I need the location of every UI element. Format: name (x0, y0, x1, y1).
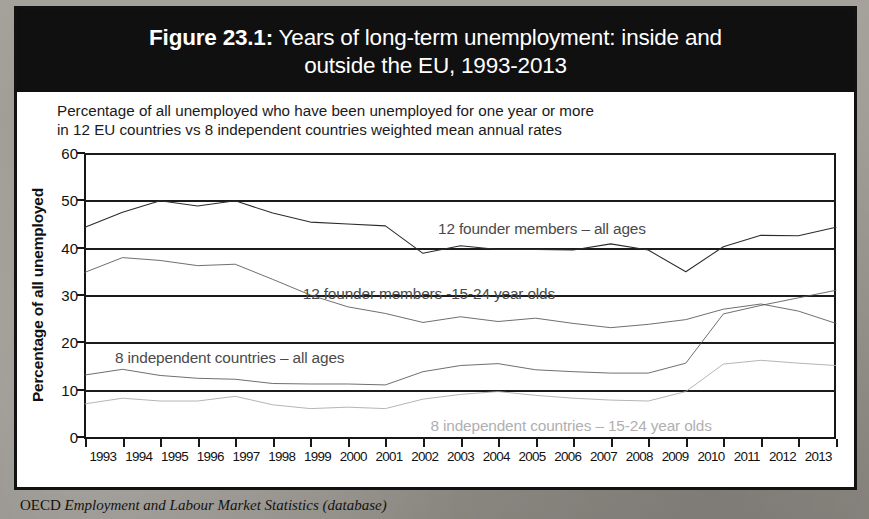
x-axis-tick-label: 2001 (371, 449, 407, 464)
x-axis-tick-label: 1993 (85, 449, 121, 464)
x-axis-tick-label: 2012 (765, 449, 801, 464)
series-annotation-label: 8 independent countries – all ages (115, 349, 344, 367)
y-axis-tick-label: 30 (61, 287, 78, 304)
x-axis-tick (385, 439, 387, 447)
x-axis-tick-label: 2000 (335, 449, 371, 464)
series-annotation-label: 12 founder members -15-24 year olds (303, 285, 555, 303)
y-axis-title: Percentage of all unemployed (25, 149, 51, 441)
x-axis-tick-label: 1994 (121, 449, 157, 464)
chart-subtitle-line-1: Percentage of all unemployed who have be… (57, 101, 836, 120)
x-axis-tick-label: 2009 (657, 449, 693, 464)
x-axis-tick (723, 439, 725, 447)
x-axis-tick-label: 2010 (693, 449, 729, 464)
x-axis-tick (798, 439, 800, 447)
y-axis-tick (77, 152, 85, 154)
series-annotation-label: 8 independent countries – 15-24 year old… (430, 417, 711, 435)
y-axis-tick-label: 60 (61, 145, 78, 162)
y-axis-tick-label: 40 (61, 239, 78, 256)
y-axis-tick-label: 20 (61, 334, 78, 351)
x-axis-tick-label: 2008 (621, 449, 657, 464)
x-axis-tick (686, 439, 688, 447)
x-axis-tick (123, 439, 125, 447)
series-line (85, 290, 836, 385)
x-axis-tick-label: 2011 (729, 449, 765, 464)
x-axis-tick (235, 439, 237, 447)
y-axis-tick (77, 436, 85, 438)
chart-subtitle-line-2: in 12 EU countries vs 8 independent coun… (57, 120, 836, 139)
x-axis-tick (198, 439, 200, 447)
y-axis-tick (77, 247, 85, 249)
x-axis-tick-label: 2005 (514, 449, 550, 464)
y-axis-tick (77, 294, 85, 296)
x-axis-tick-label: 2007 (586, 449, 622, 464)
x-axis-tick (423, 439, 425, 447)
figure-title-band: Figure 23.1: Years of long-term unemploy… (17, 9, 854, 92)
y-axis-tick (77, 199, 85, 201)
x-axis-tick-label: 1997 (228, 449, 264, 464)
x-axis-tick-label: 2002 (407, 449, 443, 464)
x-axis-tick (648, 439, 650, 447)
figure-title-line-1: Figure 23.1: Years of long-term unemploy… (149, 24, 722, 52)
source-caption: OECD Employment and Labour Market Statis… (20, 497, 850, 517)
x-axis-tick (536, 439, 538, 447)
x-axis-tick-label: 1999 (300, 449, 336, 464)
x-axis-tick (498, 439, 500, 447)
y-axis-tick-label: 50 (61, 192, 78, 209)
y-axis-tick-label: 0 (70, 429, 78, 446)
x-axis-tick (573, 439, 575, 447)
x-axis-tick (273, 439, 275, 447)
x-axis-tick-label: 2004 (478, 449, 514, 464)
y-axis-tick (77, 341, 85, 343)
source-rest: Employment and Labour Market Statistics … (61, 497, 387, 513)
x-axis-tick-label: 2003 (443, 449, 479, 464)
x-axis-tick (160, 439, 162, 447)
x-axis-tick (461, 439, 463, 447)
x-axis-tick (836, 439, 838, 447)
figure-container: Figure 23.1: Years of long-term unemploy… (14, 6, 857, 490)
y-axis-tick-label: 10 (61, 381, 78, 398)
source-lead: OECD (20, 497, 61, 513)
plot-region: 0102030405060 12 founder members – all a… (85, 153, 836, 437)
y-axis-title-text: Percentage of all unemployed (29, 188, 47, 402)
x-axis-tick (348, 439, 350, 447)
x-axis-tick-label: 1998 (264, 449, 300, 464)
figure-number: Figure 23.1: (149, 25, 273, 50)
figure-title-text: Years of long-term unemployment: inside … (273, 25, 722, 50)
x-axis-tick (611, 439, 613, 447)
x-axis: 1993199419951996199719981999200020012002… (85, 439, 836, 473)
x-axis-tick (310, 439, 312, 447)
y-axis-tick (77, 389, 85, 391)
x-axis-tick-label: 1995 (157, 449, 193, 464)
chart-subtitle: Percentage of all unemployed who have be… (17, 92, 854, 141)
x-axis-labels: 1993199419951996199719981999200020012002… (85, 449, 836, 464)
chart-area: Percentage of all unemployed 01020304050… (27, 143, 844, 473)
x-axis-tick-label: 2006 (550, 449, 586, 464)
figure-title-line-2: outside the EU, 1993-2013 (304, 52, 567, 80)
series-annotation-label: 12 founder members – all ages (438, 220, 646, 238)
x-axis-tick-label: 2013 (800, 449, 836, 464)
x-axis-tick-label: 1996 (192, 449, 228, 464)
x-axis-tick (761, 439, 763, 447)
series-line (85, 360, 836, 408)
x-axis-tick (85, 439, 87, 447)
